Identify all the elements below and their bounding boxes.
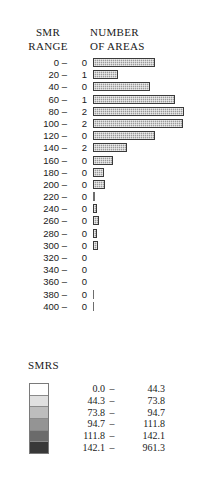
histogram-row: 40 –0 — [0, 81, 201, 93]
histogram-row: 120 –0 — [0, 130, 201, 142]
smr-range-label: 180 – — [0, 167, 67, 179]
bar-track — [93, 241, 98, 251]
histogram-bar — [93, 216, 99, 225]
smr-range-label: 220 – — [0, 191, 67, 203]
smr-range-label: 240 – — [0, 203, 67, 215]
bar-track — [93, 58, 155, 68]
bar-track — [93, 143, 127, 153]
legend-class-labels: 0.0–44.344.3–73.873.8–94.794.7–111.8111.… — [55, 383, 165, 454]
legend-title: SMRS — [28, 358, 59, 372]
smr-range-label: 280 – — [0, 228, 67, 240]
smr-range-label: 60 – — [0, 94, 67, 106]
histogram-row: 300 –0 — [0, 240, 201, 252]
number-of-areas-header-line1: NUMBER — [90, 26, 195, 40]
legend-swatch — [30, 442, 48, 453]
smr-range-label: 120 – — [0, 130, 67, 142]
area-count-label: 0 — [69, 215, 87, 227]
histogram-bar — [93, 70, 118, 79]
area-count-label: 0 — [69, 179, 87, 191]
histogram-row: 0 –0 — [0, 57, 201, 69]
number-of-areas-header-line2: OF AREAS — [90, 40, 195, 54]
smr-range-label: 320 – — [0, 252, 67, 264]
area-count-label: 0 — [69, 57, 87, 69]
legend-swatch — [30, 396, 48, 408]
legend-high-value: 94.7 — [119, 407, 165, 419]
legend-dash: – — [105, 442, 119, 454]
legend-class-row: 0.0–44.3 — [55, 383, 165, 395]
histogram-row: 180 –0 — [0, 167, 201, 179]
histogram-bar — [93, 229, 97, 238]
bar-track — [93, 180, 105, 190]
bar-track — [93, 192, 95, 202]
bar-track — [93, 156, 113, 166]
histogram-bar — [93, 131, 155, 140]
area-count-label: 0 — [69, 276, 87, 288]
histogram-bar — [93, 58, 155, 67]
histogram-row: 240 –0 — [0, 203, 201, 215]
bar-track — [93, 229, 97, 239]
smr-range-label: 100 – — [0, 118, 67, 130]
histogram-row: 260 –0 — [0, 215, 201, 227]
histogram-bar — [93, 82, 150, 91]
area-count-label: 0 — [69, 228, 87, 240]
smr-range-header-line1: SMR — [12, 26, 84, 40]
bar-track — [93, 70, 118, 80]
histogram-bar — [93, 290, 94, 299]
legend-high-value: 961.3 — [119, 442, 165, 454]
histogram-bar — [93, 204, 97, 213]
histogram-row: 400 –0 — [0, 301, 201, 313]
area-count-label: 0 — [69, 203, 87, 215]
bar-track — [93, 302, 94, 312]
bar-track — [93, 168, 104, 178]
smr-range-label: 80 – — [0, 106, 67, 118]
histogram-row: 360 –0 — [0, 276, 201, 288]
legend-high-value: 111.8 — [119, 418, 165, 430]
area-count-label: 2 — [69, 118, 87, 130]
legend-class-row: 142.1–961.3 — [55, 442, 165, 454]
histogram-row: 80 –2 — [0, 106, 201, 118]
area-count-label: 2 — [69, 142, 87, 154]
histogram-row: 160 –0 — [0, 155, 201, 167]
histogram-bar — [93, 192, 95, 201]
smr-range-label: 200 – — [0, 179, 67, 191]
smr-range-label: 380 – — [0, 289, 67, 301]
legend-high-value: 142.1 — [119, 430, 165, 442]
legend-dash: – — [105, 407, 119, 419]
smr-range-label: 340 – — [0, 264, 67, 276]
area-count-label: 0 — [69, 240, 87, 252]
histogram-bar — [93, 119, 183, 128]
histogram-bar — [93, 143, 127, 152]
histogram-bar — [93, 107, 184, 116]
legend-dash: – — [105, 395, 119, 407]
histogram-row: 100 –2 — [0, 118, 201, 130]
legend-low-value: 94.7 — [63, 418, 105, 430]
histogram-row: 340 –0 — [0, 264, 201, 276]
smr-range-label: 360 – — [0, 276, 67, 288]
smr-range-label: 20 – — [0, 69, 67, 81]
smr-range-header: SMR RANGE — [12, 26, 84, 53]
histogram-row: 220 –0 — [0, 191, 201, 203]
area-count-label: 2 — [69, 106, 87, 118]
legend-dash: – — [105, 430, 119, 442]
legend-dash: – — [105, 418, 119, 430]
histogram-row: 140 –2 — [0, 142, 201, 154]
area-count-label: 0 — [69, 130, 87, 142]
area-count-label: 0 — [69, 155, 87, 167]
legend-low-value: 0.0 — [63, 383, 105, 395]
smr-range-label: 0 – — [0, 57, 67, 69]
histogram-bar — [93, 302, 94, 311]
legend-swatch — [30, 419, 48, 431]
bar-track — [93, 95, 175, 105]
area-count-label: 0 — [69, 81, 87, 93]
histogram-bar — [93, 168, 104, 177]
area-count-label: 0 — [69, 252, 87, 264]
area-count-label: 0 — [69, 264, 87, 276]
legend-swatch — [30, 431, 48, 443]
smr-range-label: 400 – — [0, 301, 67, 313]
legend-dash: – — [105, 383, 119, 395]
legend-low-value: 111.8 — [63, 430, 105, 442]
legend-low-value: 142.1 — [63, 442, 105, 454]
histogram-row: 60 –1 — [0, 94, 201, 106]
column-headers: SMR RANGE NUMBER OF AREAS — [0, 26, 201, 56]
number-of-areas-header: NUMBER OF AREAS — [90, 26, 195, 53]
